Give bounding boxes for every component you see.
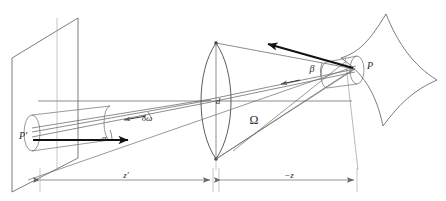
image-beam-cylinder [24, 106, 110, 151]
label-solid-angle-omega: Ω [250, 113, 259, 127]
label-angle-beta: β [309, 63, 315, 74]
label-distance-z-prime: z' [122, 170, 130, 180]
optical-diagram-figure: P' P d Ω α β δω z' −z [0, 0, 446, 201]
object-surface [341, 14, 437, 126]
label-object-point: P [366, 60, 373, 71]
label-distance-minus-z: −z [284, 170, 294, 180]
ray-bundle [32, 69, 355, 137]
label-aperture-d: d [216, 96, 221, 106]
angle-alpha-arc [110, 130, 112, 139]
label-delta-omega: δω [142, 113, 153, 123]
label-image-point: P' [18, 130, 28, 141]
diagram-canvas: P' P d Ω α β δω z' −z [0, 0, 446, 201]
label-angle-alpha: α [102, 133, 107, 143]
